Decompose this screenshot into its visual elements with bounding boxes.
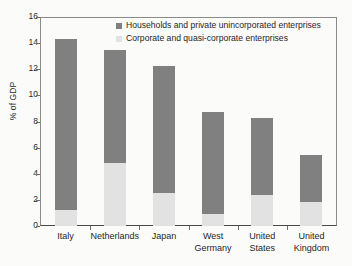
legend-label: Corporate and quasi-corporate enterprise…	[126, 33, 288, 44]
y-axis-tick-label: 2	[16, 195, 38, 204]
x-axis-tick	[90, 226, 91, 230]
x-axis-tick-label: Netherlands	[73, 231, 157, 243]
y-axis-title: % of GDP	[8, 66, 18, 136]
legend-item: Corporate and quasi-corporate enterprise…	[116, 33, 321, 45]
x-axis-tick-label-line: West	[171, 231, 255, 243]
y-axis-tick-label: 8	[16, 117, 38, 126]
x-axis-tick-label: UnitedKingdom	[269, 231, 352, 254]
x-axis-tick	[189, 226, 190, 230]
x-axis-tick-label-line: States	[220, 243, 304, 255]
x-axis-tick-label-line: Kingdom	[269, 243, 352, 255]
x-axis-tick	[287, 226, 288, 230]
legend-label: Households and private unincorporated en…	[126, 20, 321, 31]
y-axis-tick-label: 14	[16, 38, 38, 47]
x-axis-tick-label: UnitedStates	[220, 231, 304, 254]
x-axis-tick-label-line: United	[220, 231, 304, 243]
plot-area	[40, 17, 337, 226]
y-axis-tick-label: 16	[16, 12, 38, 21]
y-axis-tick-label: 12	[16, 64, 38, 73]
x-axis-tick-label-line: Netherlands	[73, 231, 157, 243]
y-axis-tick-label: 6	[16, 143, 38, 152]
x-axis-tick-label-line: United	[269, 231, 352, 243]
x-axis-tick-label: Japan	[122, 231, 206, 243]
y-axis-tick-label: 10	[16, 90, 38, 99]
y-axis-tick-label: 0	[16, 221, 38, 230]
legend-swatch-icon	[116, 36, 122, 42]
x-axis-tick	[139, 226, 140, 230]
x-axis-tick	[238, 226, 239, 230]
y-axis-tick	[36, 226, 40, 227]
x-axis-tick-label: Italy	[24, 231, 108, 243]
chart-figure: % of GDP 0246810121416 ItalyNetherlandsJ…	[0, 0, 352, 266]
chart-legend: Households and private unincorporated en…	[116, 20, 321, 46]
legend-item: Households and private unincorporated en…	[116, 20, 321, 32]
x-axis-tick-label: WestGermany	[171, 231, 255, 254]
x-axis-tick-label-line: Germany	[171, 243, 255, 255]
x-axis-tick-label-line: Italy	[24, 231, 108, 243]
y-axis-tick-label: 4	[16, 169, 38, 178]
legend-swatch-icon	[116, 23, 122, 29]
x-axis-tick-label-line: Japan	[122, 231, 206, 243]
